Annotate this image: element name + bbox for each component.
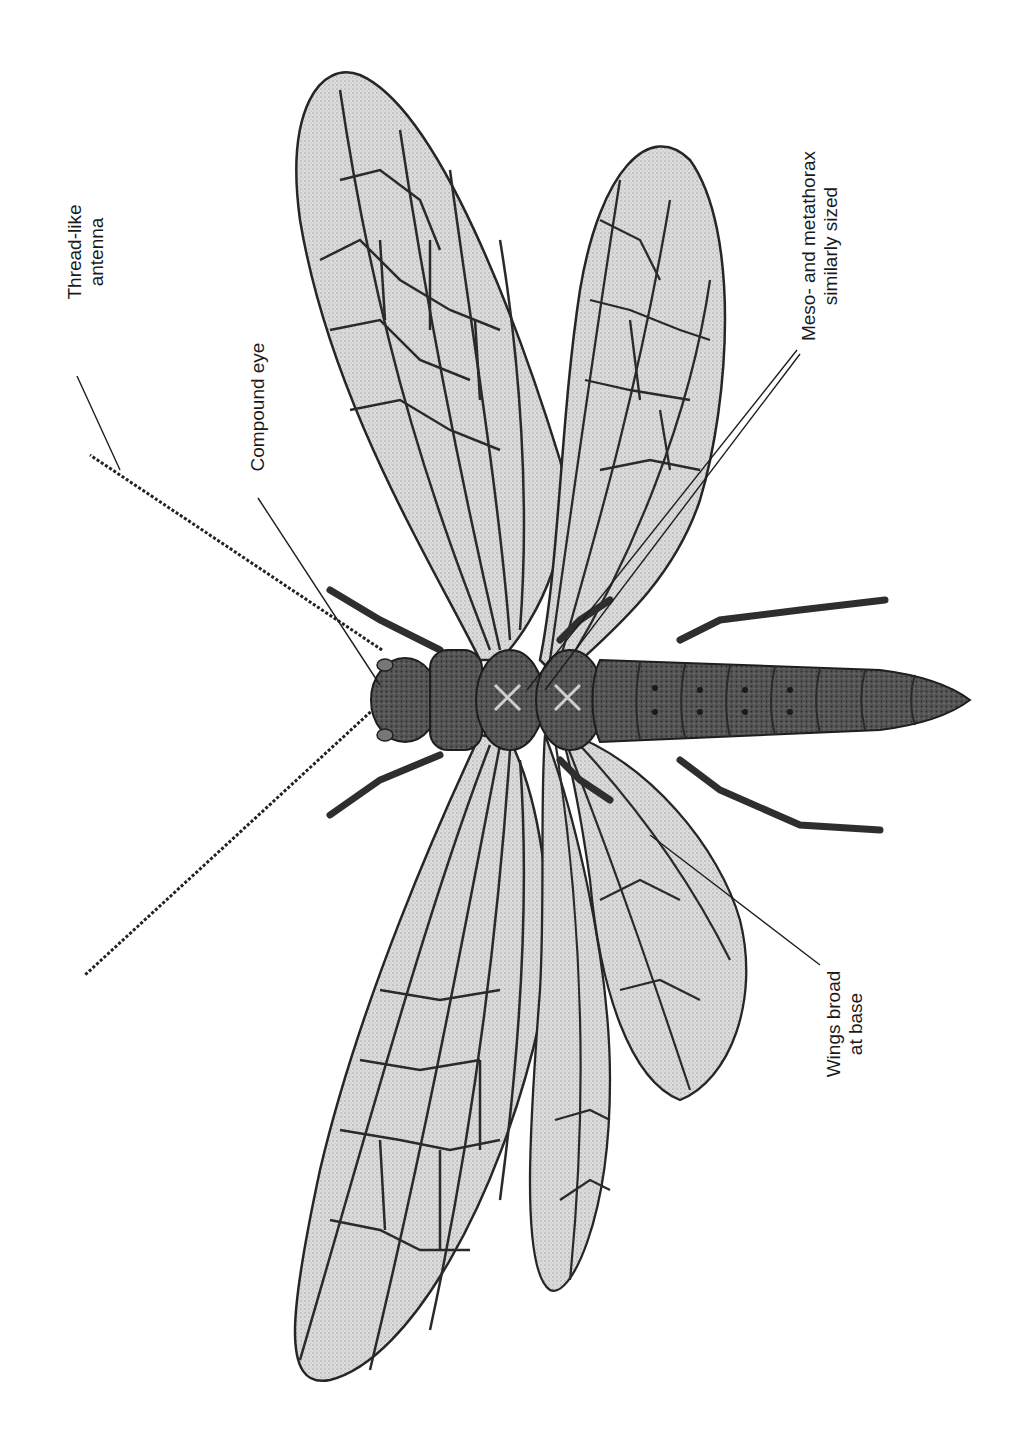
wing-lower-hind: [530, 730, 746, 1291]
label-line: similarly sized: [820, 146, 842, 346]
label-thread-like-antenna: Thread-like antenna: [64, 194, 108, 310]
label-line: antenna: [86, 194, 108, 310]
label-line: Meso- and metathorax: [798, 146, 820, 346]
label-line: Compound eye: [247, 339, 269, 475]
compound-eye-upper: [377, 659, 393, 671]
alderfly-illustration: [0, 0, 1034, 1438]
leader-compound-eye: [258, 498, 380, 685]
leader-antenna: [77, 376, 120, 470]
antennae: [85, 455, 382, 975]
label-meso-metathorax: Meso- and metathorax similarly sized: [798, 146, 842, 346]
label-line: at base: [845, 967, 867, 1081]
wing-lower-fore: [295, 735, 548, 1381]
wing-upper-fore: [296, 72, 565, 660]
body: [371, 650, 970, 750]
compound-eye-lower: [377, 729, 393, 741]
prothorax: [430, 650, 482, 750]
antenna-lower: [85, 705, 378, 975]
wing-upper-hind: [540, 146, 725, 680]
label-compound-eye: Compound eye: [247, 339, 269, 475]
label-line: Wings broad: [823, 967, 845, 1081]
label-line: Thread-like: [64, 194, 86, 310]
abdomen: [593, 660, 971, 742]
label-wings-broad-at-base: Wings broad at base: [823, 967, 867, 1081]
